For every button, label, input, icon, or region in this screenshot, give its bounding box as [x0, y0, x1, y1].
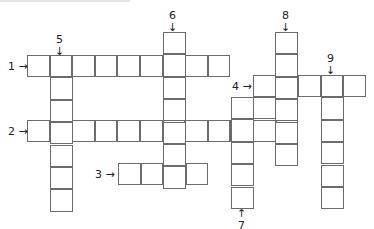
arrow-right-icon: →	[19, 60, 28, 73]
crossword-cell[interactable]	[163, 99, 186, 121]
crossword-cell[interactable]	[50, 167, 73, 189]
crossword-cell[interactable]	[275, 54, 298, 76]
crossword-cell[interactable]	[253, 75, 276, 97]
crossword-cell[interactable]	[72, 120, 95, 142]
crossword-cell[interactable]	[275, 144, 298, 166]
crossword-grid: 1 →2 →3 →4 →5↓6↓↑78↓9↓	[0, 0, 374, 229]
crossword-cell[interactable]	[185, 55, 208, 77]
arrow-down-icon: ↓	[168, 22, 177, 34]
clue-label-7: ↑7	[237, 208, 246, 229]
crossword-cell[interactable]	[321, 75, 344, 97]
crossword-cell[interactable]	[275, 99, 298, 121]
crossword-cell[interactable]	[163, 32, 186, 54]
arrow-down-icon: ↓	[281, 22, 290, 34]
crossword-cell[interactable]	[140, 120, 163, 142]
arrow-down-icon: ↓	[326, 65, 335, 77]
crossword-cell[interactable]	[321, 187, 344, 209]
crossword-cell[interactable]	[231, 97, 254, 119]
crossword-cell[interactable]	[253, 120, 276, 142]
clue-label-5: 5↓	[55, 34, 64, 58]
clue-number: 4	[232, 80, 239, 93]
crossword-cell[interactable]	[321, 120, 344, 142]
crossword-cell[interactable]	[50, 122, 73, 144]
clue-label-2: 2 →	[8, 126, 28, 138]
clue-number: 2	[8, 125, 15, 138]
crossword-cell[interactable]	[163, 77, 186, 99]
crossword-cell[interactable]	[185, 120, 208, 142]
clue-label-8: 8↓	[281, 10, 290, 34]
crossword-cell[interactable]	[208, 55, 231, 77]
crossword-cell[interactable]	[275, 122, 298, 144]
crossword-cell[interactable]	[117, 55, 140, 77]
crossword-cell[interactable]	[231, 119, 254, 141]
crossword-cell[interactable]	[141, 163, 164, 185]
crossword-cell[interactable]	[27, 120, 50, 142]
crossword-cell[interactable]	[163, 144, 186, 166]
clue-number: 3	[95, 168, 102, 181]
crossword-cell[interactable]	[343, 75, 366, 97]
clue-number: 1	[8, 60, 15, 73]
crossword-cell[interactable]	[50, 55, 73, 77]
crossword-cell[interactable]	[95, 55, 118, 77]
crossword-cell[interactable]	[231, 142, 254, 164]
crossword-cell[interactable]	[50, 189, 73, 211]
crossword-cell[interactable]	[163, 54, 186, 76]
crossword-cell[interactable]	[321, 142, 344, 164]
crossword-cell[interactable]	[298, 75, 321, 97]
crossword-cell[interactable]	[186, 163, 209, 185]
clue-label-3: 3 →	[95, 169, 115, 181]
crossword-cell[interactable]	[163, 122, 186, 144]
arrow-right-icon: →	[106, 168, 115, 181]
clue-number: 7	[237, 220, 246, 229]
crossword-cell[interactable]	[163, 166, 186, 188]
crossword-cell[interactable]	[50, 100, 73, 122]
crossword-cell[interactable]	[72, 55, 95, 77]
crossword-cell[interactable]	[275, 77, 298, 99]
crossword-cell[interactable]	[117, 120, 140, 142]
arrow-down-icon: ↓	[55, 46, 64, 58]
cropped-instruction-text	[0, 0, 130, 2]
clue-label-1: 1 →	[8, 61, 28, 73]
arrow-right-icon: →	[243, 80, 252, 93]
clue-label-9: 9↓	[326, 53, 335, 77]
clue-label-6: 6↓	[168, 10, 177, 34]
crossword-cell[interactable]	[275, 32, 298, 54]
crossword-cell[interactable]	[50, 77, 73, 99]
crossword-cell[interactable]	[50, 145, 73, 167]
crossword-cell[interactable]	[95, 120, 118, 142]
crossword-cell[interactable]	[208, 120, 231, 142]
arrow-right-icon: →	[19, 125, 28, 138]
crossword-cell[interactable]	[140, 55, 163, 77]
crossword-cell[interactable]	[321, 165, 344, 187]
crossword-cell[interactable]	[253, 97, 276, 119]
crossword-cell[interactable]	[231, 164, 254, 186]
clue-label-4: 4 →	[232, 81, 252, 93]
crossword-cell[interactable]	[231, 187, 254, 209]
crossword-cell[interactable]	[27, 55, 50, 77]
crossword-cell[interactable]	[321, 97, 344, 119]
crossword-cell[interactable]	[118, 163, 141, 185]
